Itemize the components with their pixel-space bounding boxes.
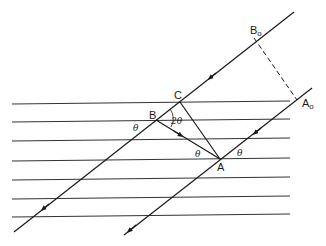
- label-C: C: [174, 89, 182, 101]
- label-theta-A-right: θ: [237, 148, 243, 158]
- label-theta-B: θ: [133, 123, 139, 133]
- label-two-theta: 2θ: [170, 116, 183, 126]
- label-Ao: Ao: [302, 97, 314, 111]
- plane-line: [12, 158, 290, 161]
- label-theta-A-left: θ: [195, 149, 201, 159]
- plane-line: [12, 177, 290, 180]
- label-A: A: [217, 161, 225, 173]
- plane-line: [12, 101, 290, 104]
- bragg-diagram: C B A Bo Ao 2θ θ θ θ: [0, 0, 326, 246]
- label-B: B: [149, 109, 156, 121]
- wavefront-BoAo: [254, 38, 297, 100]
- label-Bo: Bo: [250, 24, 262, 38]
- plane-line: [12, 196, 290, 199]
